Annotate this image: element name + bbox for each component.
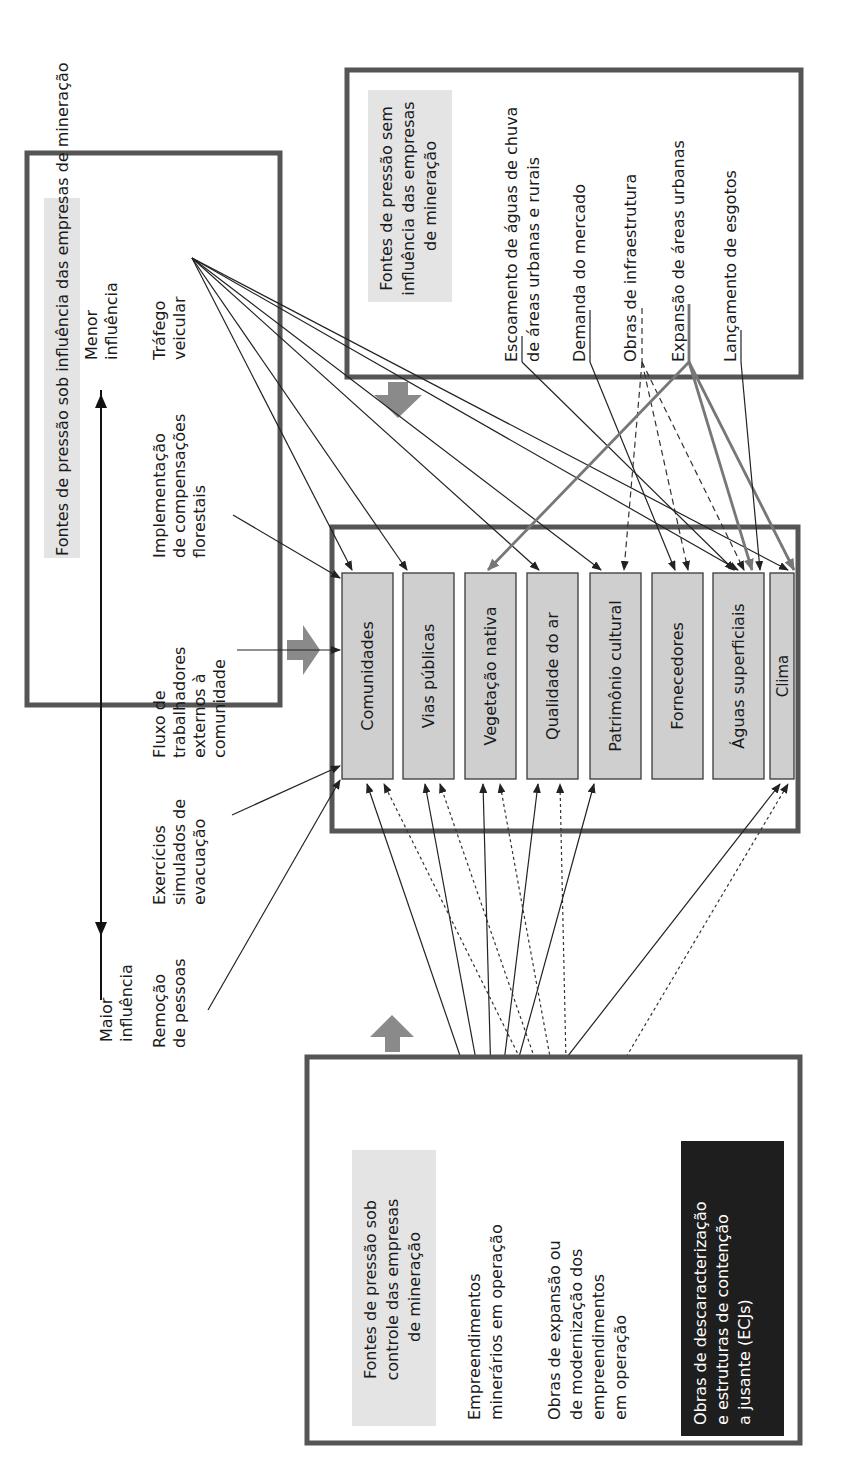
- svg-text:Qualidade do ar: Qualidade do ar: [543, 612, 562, 740]
- controlled-box: Fontes de pressão sob controle das empre…: [307, 1057, 800, 1443]
- receptor-vegetacao-nativa: Vegetação nativa: [465, 573, 516, 779]
- source-exercicios-evacuacao: Exercícios simulados de evacuação: [150, 794, 209, 905]
- receptor-patrimonio-cultural: Patrimônio cultural: [590, 573, 641, 779]
- pressure-sources-diagram: Fontes de pressão sob influência das emp…: [0, 0, 849, 1480]
- receptor-fornecedores: Fornecedores: [652, 573, 703, 779]
- big-arrow-up-icon: [370, 1015, 414, 1052]
- svg-text:Clima: Clima: [774, 655, 792, 698]
- source-remocao-pessoas: Remoção de pessoas: [150, 958, 189, 1048]
- big-arrow-down-icon: [374, 382, 422, 418]
- scale-high-label: Maior influência: [97, 964, 136, 1042]
- svg-text:Vegetação nativa: Vegetação nativa: [481, 606, 500, 745]
- source-trafego-veicular: Tráfego veicular: [150, 296, 189, 361]
- influence-box-title: Fontes de pressão sob influência das emp…: [53, 62, 72, 556]
- svg-text:Fornecedores: Fornecedores: [668, 622, 687, 730]
- source-lancamento-esgotos: Lançamento de esgotos: [721, 170, 740, 362]
- receptor-aguas-superficiais: Águas superficiais: [713, 573, 764, 779]
- receptor-qualidade-ar: Qualidade do ar: [527, 573, 578, 779]
- source-expansao-urbana: Expansão de áreas urbanas: [669, 140, 688, 362]
- svg-text:Vias públicas: Vias públicas: [419, 624, 438, 729]
- receptor-comunidades: Comunidades: [342, 573, 393, 779]
- source-demanda-mercado: Demanda do mercado: [570, 184, 589, 362]
- svg-text:Patrimônio cultural: Patrimônio cultural: [606, 600, 625, 752]
- receptors-box: Comunidades Vias públicas Vegetação nati…: [332, 527, 798, 831]
- influence-box: Fontes de pressão sob influência das emp…: [27, 62, 280, 1048]
- source-obras-infraestrutura: Obras de infraestrutura: [621, 174, 640, 362]
- receptor-clima-rendered: Clima: [770, 573, 794, 779]
- receptor-vias-publicas: Vias públicas: [403, 573, 454, 779]
- svg-text:Comunidades: Comunidades: [358, 621, 377, 731]
- no-influence-box: Fontes de pressão sem influência das emp…: [347, 70, 801, 377]
- svg-text:Águas superficiais: Águas superficiais: [729, 603, 748, 748]
